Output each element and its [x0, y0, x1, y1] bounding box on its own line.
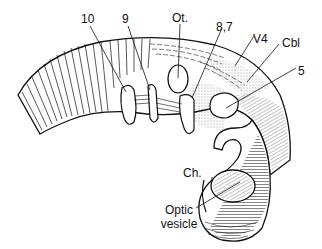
- label-v4: V4: [253, 33, 268, 45]
- label-8-7: 8,7: [216, 21, 233, 33]
- label-ot: Ot.: [172, 12, 188, 24]
- label-5: 5: [298, 65, 305, 77]
- pouch-10: [121, 85, 136, 124]
- label-optic-vesicle: Optic vesicle: [150, 203, 208, 231]
- head-region: [199, 120, 270, 241]
- label-optic-line1: Optic: [150, 203, 208, 217]
- pouch-8-7: [180, 95, 195, 134]
- embryo-diagram: 10 9 Ot. 8,7 V4 Cbl 5 Ch. Optic vesicle: [0, 0, 322, 249]
- trigeminal-ganglion: [210, 93, 238, 118]
- label-10: 10: [81, 13, 94, 25]
- label-optic-line2: vesicle: [150, 217, 208, 231]
- label-cbl: Cbl: [282, 37, 300, 49]
- label-ch: Ch.: [183, 167, 202, 179]
- label-9: 9: [122, 13, 129, 25]
